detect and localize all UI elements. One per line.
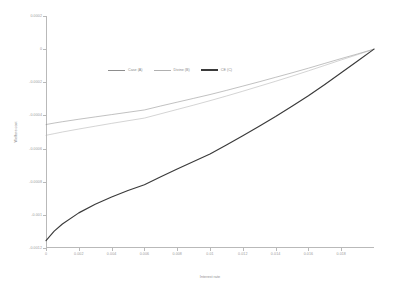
legend-line-swatch <box>108 70 125 71</box>
x-tick-label: 0.004 <box>107 252 117 256</box>
x-tick-mark <box>79 248 80 251</box>
x-tick-mark <box>46 248 47 251</box>
y-tick-label: -0.0004 <box>29 113 42 117</box>
x-tick-mark <box>177 248 178 251</box>
x-tick-mark <box>112 248 113 251</box>
series-line <box>46 49 374 124</box>
x-tick-label: 0.008 <box>172 252 182 256</box>
x-tick-mark <box>210 248 211 251</box>
plot-area: 0.00020-0.0002-0.0004-0.0006-0.0008-0.00… <box>46 16 374 248</box>
series-line <box>46 49 374 135</box>
legend-line-swatch <box>154 70 171 71</box>
y-tick-label: -0.001 <box>31 213 42 217</box>
x-axis-title: Interest rate <box>200 275 220 279</box>
legend-item[interactable]: Divine (B) <box>154 68 190 72</box>
legend-label: Case (A) <box>128 68 143 72</box>
x-tick-mark <box>276 248 277 251</box>
x-tick-label: 0.014 <box>271 252 281 256</box>
legend-item[interactable]: Case (A) <box>108 68 143 72</box>
x-tick-label: 0.006 <box>140 252 150 256</box>
series-curves <box>46 16 374 248</box>
y-tick-label: 0.0002 <box>30 14 42 18</box>
x-tick-label: 0.01 <box>206 252 213 256</box>
x-tick-label: 0.016 <box>304 252 314 256</box>
y-tick-label: -0.0012 <box>29 246 42 250</box>
y-tick-label: 0 <box>40 47 42 51</box>
legend-label: Divine (B) <box>174 68 190 72</box>
series-line <box>46 49 374 240</box>
x-tick-label: 0.002 <box>74 252 84 256</box>
legend-label: CE (C) <box>221 68 232 72</box>
x-tick-mark <box>308 248 309 251</box>
x-tick-mark <box>341 248 342 251</box>
y-tick-label: -0.0002 <box>29 80 42 84</box>
x-tick-label: 0.018 <box>336 252 346 256</box>
y-tick-label: -0.0006 <box>29 147 42 151</box>
x-tick-label: 0.012 <box>238 252 248 256</box>
chart-figure: 0.00020-0.0002-0.0004-0.0006-0.0008-0.00… <box>0 0 398 282</box>
x-tick-mark <box>144 248 145 251</box>
y-axis-title: Welfare cost <box>14 121 18 142</box>
x-tick-label: 0 <box>45 252 47 256</box>
y-tick-label: -0.0008 <box>29 180 42 184</box>
legend-item[interactable]: CE (C) <box>201 68 232 72</box>
legend-line-swatch <box>201 69 218 70</box>
chart-legend: Case (A)Divine (B)CE (C) <box>108 68 232 72</box>
x-tick-mark <box>243 248 244 251</box>
